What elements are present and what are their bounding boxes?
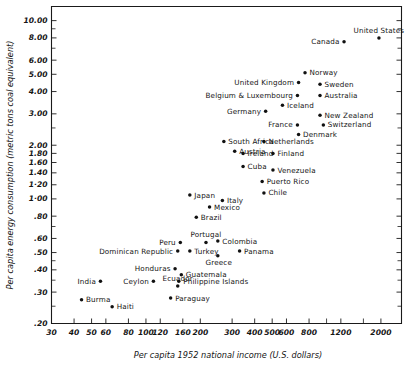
data-point [188, 249, 192, 253]
y-tick-label: 10.00 [23, 16, 48, 25]
data-point [297, 133, 301, 137]
data-point [176, 249, 180, 253]
x-axis-title: Per capita 1952 national income (U.S. do… [134, 350, 322, 360]
x-tick-label: 50 [86, 328, 97, 337]
data-point-label: Panama [244, 247, 274, 256]
data-point [222, 140, 226, 144]
data-point [204, 241, 208, 245]
data-point [195, 215, 199, 219]
data-point [296, 94, 300, 98]
data-point-label: South Africa [228, 137, 273, 146]
y-tick-label: .20 [34, 319, 48, 328]
data-point [318, 94, 322, 98]
x-tick-label: 120 [152, 328, 169, 337]
data-point [318, 113, 322, 117]
data-point [264, 110, 268, 114]
data-point-label: France [268, 120, 293, 129]
data-point [260, 180, 264, 184]
data-point [176, 284, 180, 288]
y-tick-label: 1·20 [29, 180, 48, 189]
data-point-label: Iceland [287, 101, 314, 110]
data-point-label: United States [354, 26, 405, 35]
data-point [303, 71, 307, 75]
data-point-label: Brazil [201, 213, 222, 222]
y-tick-label: 8.00 [29, 33, 48, 42]
chart-page: 3040506080100120160200300400500600800120… [0, 0, 411, 366]
y-tick-label: 1·00 [29, 194, 48, 203]
data-point [241, 152, 245, 156]
data-point-label: Puerto Rico [267, 177, 310, 186]
data-point-label: Colombia [222, 237, 257, 246]
data-point-label: Chile [268, 188, 287, 197]
data-point [262, 191, 266, 195]
data-point [377, 36, 381, 40]
data-point-label: Switzerland [328, 120, 372, 129]
data-point [152, 280, 156, 284]
data-point-label: Ecuador [163, 274, 193, 283]
data-point-label: Sweden [325, 80, 354, 89]
data-point [216, 239, 220, 243]
data-point [233, 150, 237, 154]
data-point-label: Ireland [248, 149, 274, 158]
x-tick-label: 200 [192, 328, 209, 337]
y-tick-label: 1.60 [29, 158, 48, 167]
data-point [271, 152, 275, 156]
data-point [169, 296, 173, 300]
x-tick-label: 400 [247, 328, 264, 337]
data-point-label: Canada [311, 37, 339, 46]
data-point-label: Finland [277, 149, 304, 158]
data-point [342, 40, 346, 44]
data-point [296, 123, 300, 127]
data-point-label: Ceylon [123, 277, 149, 286]
data-point-label: Philippine Islands [183, 277, 248, 286]
x-tick-label: 2000 [370, 328, 392, 337]
y-tick-label: .80 [34, 212, 48, 221]
y-tick-label: 6.00 [29, 56, 48, 65]
y-tick-label: .50 [34, 248, 48, 257]
data-point [297, 81, 301, 85]
y-tick-label: 4.00 [29, 87, 48, 96]
data-point [262, 140, 266, 144]
x-tick-label: 600 [279, 328, 296, 337]
data-point [99, 280, 103, 284]
x-tick-label: 30 [46, 328, 57, 337]
data-point [318, 82, 322, 86]
data-point [173, 267, 177, 271]
data-point-label: Paraguay [175, 294, 210, 303]
data-points: United StatesCanadaNorwayUnited KingdomS… [78, 26, 405, 311]
data-point-label: Portugal [190, 230, 221, 239]
x-axis-ticks: 3040506080100120160200300400500600800120… [46, 319, 401, 338]
data-point [216, 254, 220, 258]
data-point-label: Cuba [248, 162, 267, 171]
data-point-label: Haiti [117, 302, 134, 311]
scatter-plot: 3040506080100120160200300400500600800120… [0, 0, 411, 366]
data-point [238, 249, 242, 253]
data-point [179, 241, 183, 245]
data-point-label: Germany [227, 107, 262, 116]
y-tick-label: 3.00 [29, 109, 48, 118]
data-point-label: Burma [86, 295, 110, 304]
data-point-label: Norway [310, 68, 339, 77]
y-axis-title: Per capita energy consumption (metric to… [5, 41, 15, 290]
y-tick-label: 5.00 [29, 70, 48, 79]
data-point [322, 123, 326, 127]
data-point-label: Venezuela [277, 166, 315, 175]
data-point-label: Turkey [193, 247, 219, 256]
y-tick-label: 1.80 [29, 149, 48, 158]
data-point [241, 165, 245, 169]
data-point-label: Japan [193, 191, 215, 200]
x-tick-label: 80 [123, 328, 134, 337]
x-tick-label: 800 [301, 328, 318, 337]
data-point-label: Mexico [214, 203, 240, 212]
x-tick-label: 1200 [330, 328, 352, 337]
data-point-label: United Kingdom [234, 78, 294, 87]
data-point-label: Dominican Republic [99, 247, 173, 256]
data-point [281, 104, 285, 108]
data-point-label: Australia [325, 91, 358, 100]
data-point-label: New Zealand [325, 111, 374, 120]
data-point-label: Greece [206, 258, 233, 267]
x-tick-label: 40 [69, 328, 80, 337]
data-point-label: India [78, 277, 96, 286]
data-point [110, 305, 114, 309]
y-tick-label: .30 [34, 288, 48, 297]
